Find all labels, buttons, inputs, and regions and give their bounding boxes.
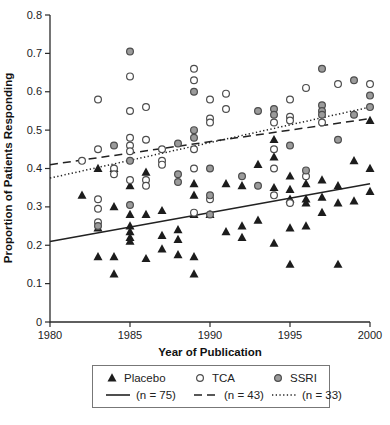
legend-label-ssri: SSRI xyxy=(290,372,317,384)
legend-label-tca-n: (n = 43) xyxy=(224,389,264,401)
placebo-triangle-icon xyxy=(105,372,119,384)
legend-label-placebo-n: (n = 75) xyxy=(136,389,176,401)
legend-item-tca: TCA xyxy=(193,372,271,384)
placebo-points xyxy=(78,116,375,278)
x-axis-title: Year of Publication xyxy=(158,346,262,358)
legend-item-placebo-trend: (n = 75) xyxy=(105,389,193,401)
legend-item-tca-trend: (n = 43) xyxy=(193,389,271,401)
y-tick-label: 0.4 xyxy=(27,162,42,174)
tca-points xyxy=(79,65,374,225)
y-tick-label: 0.1 xyxy=(27,277,42,289)
legend: Placebo TCA SSRI (n = 75) (n = 43) (n = … xyxy=(92,365,330,408)
response-rate-figure: Year of Publication Proportion of Patien… xyxy=(0,0,390,425)
scatter-chart: Year of Publication Proportion of Patien… xyxy=(0,0,390,362)
y-tick-label: 0.3 xyxy=(27,200,42,212)
y-tick-label: 0.2 xyxy=(27,239,42,251)
legend-grid: Placebo TCA SSRI (n = 75) (n = 43) (n = … xyxy=(105,372,323,401)
x-tick-label: 2000 xyxy=(358,329,382,341)
dashed-line-icon xyxy=(193,389,219,401)
legend-item-placebo: Placebo xyxy=(105,372,193,384)
y-axis-title: Proportion of Patients Responding xyxy=(2,73,14,263)
tca-circle-icon xyxy=(193,372,207,384)
x-tick-label: 1985 xyxy=(118,329,142,341)
ssri-circle-icon xyxy=(271,372,285,384)
y-tick-label: 0.8 xyxy=(27,9,42,21)
x-tick-label: 1995 xyxy=(278,329,302,341)
legend-label-ssri-n: (n = 33) xyxy=(302,389,342,401)
y-tick-label: 0 xyxy=(36,316,42,328)
legend-item-ssri: SSRI xyxy=(271,372,342,384)
solid-line-icon xyxy=(105,389,131,401)
legend-item-ssri-trend: (n = 33) xyxy=(271,389,342,401)
x-tick-label: 1990 xyxy=(198,329,222,341)
legend-label-tca: TCA xyxy=(212,372,235,384)
y-tick-label: 0.5 xyxy=(27,124,42,136)
y-tick-label: 0.7 xyxy=(27,47,42,59)
dotted-line-icon xyxy=(271,389,297,401)
y-tick-label: 0.6 xyxy=(27,85,42,97)
legend-label-placebo: Placebo xyxy=(124,372,166,384)
x-tick-label: 1980 xyxy=(38,329,62,341)
